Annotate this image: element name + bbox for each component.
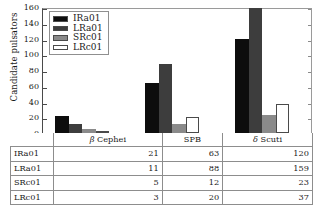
greek-letter: δ bbox=[253, 134, 258, 144]
table-cell-value: 12 bbox=[162, 176, 222, 191]
y-axis-tick-label: 20 bbox=[29, 114, 39, 122]
table-header-cell: β Cephei bbox=[54, 133, 163, 147]
table-row-label: LRa01 bbox=[11, 161, 54, 176]
figure-bar-chart-with-table: Candidate pulsators 02040608010012014016… bbox=[0, 0, 323, 207]
table-header-corner bbox=[11, 133, 54, 147]
table-header-cell: δ Scuti bbox=[223, 133, 313, 147]
legend-swatch-lra01 bbox=[53, 26, 68, 32]
bar-src01-1 bbox=[172, 124, 186, 133]
legend-swatch-ira01 bbox=[53, 16, 68, 22]
bar-src01-2 bbox=[262, 115, 276, 133]
table-cell-value: 63 bbox=[162, 147, 222, 162]
bar-group bbox=[145, 9, 199, 133]
y-axis-tick-label: 120 bbox=[24, 36, 39, 44]
table-row-label: IRa01 bbox=[11, 147, 54, 162]
legend-label: LRc01 bbox=[73, 43, 102, 52]
y-axis-tick-label: 160 bbox=[24, 4, 39, 12]
chart-legend: IRa01LRa01SRc01LRc01 bbox=[49, 11, 109, 55]
table-cell-value: 5 bbox=[54, 176, 163, 191]
table-row-label: LRc01 bbox=[11, 190, 54, 205]
table-row-label: SRc01 bbox=[11, 176, 54, 191]
y-axis-tick-label: 60 bbox=[29, 83, 39, 91]
legend-label: SRc01 bbox=[73, 33, 102, 42]
table-row: IRa012163120 bbox=[11, 147, 313, 162]
legend-item: LRc01 bbox=[53, 43, 103, 53]
bar-lra01-0 bbox=[69, 124, 83, 133]
table-cell-value: 37 bbox=[223, 190, 313, 205]
table-cell-value: 20 bbox=[162, 190, 222, 205]
chart-region: Candidate pulsators 02040608010012014016… bbox=[0, 0, 323, 140]
legend-label: IRa01 bbox=[73, 14, 100, 23]
bar-lra01-1 bbox=[159, 64, 173, 133]
bar-lrc01-1 bbox=[186, 117, 200, 133]
y-axis-tick-label: 140 bbox=[24, 20, 39, 28]
bar-group bbox=[235, 9, 289, 133]
table-row: SRc0151223 bbox=[11, 176, 313, 191]
y-axis-tick-label: 40 bbox=[29, 99, 39, 107]
table-row: LRa011188159 bbox=[11, 161, 313, 176]
table-header-row: β CepheiSPBδ Scuti bbox=[11, 133, 313, 147]
bar-ira01-1 bbox=[145, 83, 159, 133]
table-cell-value: 88 bbox=[162, 161, 222, 176]
legend-swatch-lrc01 bbox=[53, 45, 68, 51]
table-header-cell: SPB bbox=[162, 133, 222, 147]
table-cell-value: 120 bbox=[223, 147, 313, 162]
table-cell-value: 159 bbox=[223, 161, 313, 176]
table-cell-value: 21 bbox=[54, 147, 163, 162]
data-table: β CepheiSPBδ ScutiIRa012163120LRa0111881… bbox=[10, 133, 313, 205]
legend-swatch-src01 bbox=[53, 35, 68, 41]
y-axis-tick-label: 80 bbox=[29, 67, 39, 75]
bar-lra01-2 bbox=[249, 8, 263, 133]
bar-lrc01-2 bbox=[276, 104, 290, 133]
bar-ira01-2 bbox=[235, 39, 249, 134]
bar-ira01-0 bbox=[55, 116, 69, 133]
table-row: LRc0132037 bbox=[11, 190, 313, 205]
y-axis-tick-label: 100 bbox=[24, 51, 39, 59]
table-cell-value: 23 bbox=[223, 176, 313, 191]
greek-letter: β bbox=[90, 134, 95, 144]
y-axis-tick-labels: 020406080100120140160 bbox=[15, 8, 39, 134]
table-cell-value: 3 bbox=[54, 190, 163, 205]
table-cell-value: 11 bbox=[54, 161, 163, 176]
